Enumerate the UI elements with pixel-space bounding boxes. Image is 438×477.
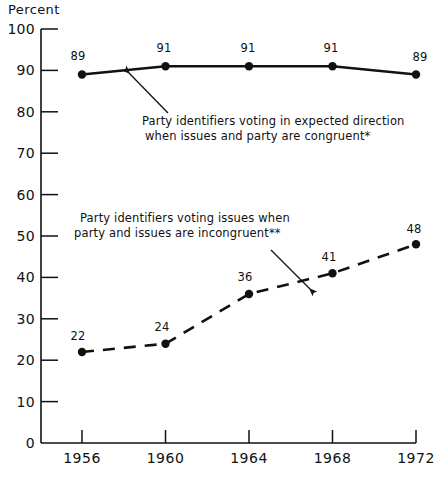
data-point-incongruent-1960 — [161, 340, 169, 348]
data-label-incongruent-1972: 48 — [406, 222, 421, 236]
data-label-incongruent-1968: 41 — [321, 250, 336, 264]
data-label-incongruent-1964: 36 — [237, 270, 252, 284]
y-axis-title: Percent — [8, 2, 60, 17]
x-tick-label-1972: 1972 — [397, 450, 435, 466]
y-tick-label-80: 80 — [17, 104, 35, 120]
y-tick-label-10: 10 — [17, 394, 35, 410]
data-point-congruent-1956 — [78, 70, 86, 78]
annotation-incongruent-line1: Party identifiers voting issues when — [80, 211, 290, 225]
y-tick-label-60: 60 — [17, 187, 35, 203]
data-point-congruent-1960 — [161, 62, 169, 70]
annotation-congruent: Party identifiers voting in expected dir… — [129, 73, 405, 143]
chart-canvas: Percent 100 90 80 70 60 50 40 — [0, 0, 438, 477]
x-axis-ticks — [82, 430, 416, 443]
y-tick-label-70: 70 — [17, 145, 35, 161]
data-point-congruent-1964 — [245, 62, 253, 70]
data-point-incongruent-1964 — [245, 290, 253, 298]
data-label-congruent-1964: 91 — [240, 41, 255, 55]
chart-figure: Percent 100 90 80 70 60 50 40 — [0, 0, 438, 477]
y-axis-tick-labels: 100 90 80 70 60 50 40 30 20 10 0 — [7, 21, 35, 451]
y-tick-label-90: 90 — [17, 62, 35, 78]
annotation-congruent-arrow — [129, 73, 168, 113]
y-tick-label-50: 50 — [17, 228, 35, 244]
y-tick-label-0: 0 — [26, 435, 35, 451]
annotation-incongruent: Party identifiers voting issues when par… — [74, 211, 310, 289]
x-tick-label-1964: 1964 — [230, 450, 268, 466]
y-tick-label-20: 20 — [17, 352, 35, 368]
y-tick-label-100: 100 — [7, 21, 35, 37]
annotation-incongruent-arrow — [271, 250, 310, 289]
x-tick-label-1956: 1956 — [63, 450, 101, 466]
annotation-congruent-line2: when issues and party are congruent* — [145, 129, 371, 143]
data-point-incongruent-1956 — [78, 348, 86, 356]
y-axis-ticks — [41, 29, 58, 402]
data-point-congruent-1972 — [412, 70, 420, 78]
annotation-incongruent-line2: party and issues are incongruent** — [74, 226, 281, 240]
y-tick-label-40: 40 — [17, 269, 35, 285]
y-tick-label-30: 30 — [17, 311, 35, 327]
data-label-incongruent-1956: 22 — [70, 329, 85, 343]
x-tick-label-1968: 1968 — [314, 450, 352, 466]
data-label-congruent-1968: 91 — [323, 41, 338, 55]
data-label-congruent-1960: 91 — [156, 41, 171, 55]
annotation-congruent-line1: Party identifiers voting in expected dir… — [142, 114, 405, 128]
series-incongruent: 22 24 36 41 48 — [70, 222, 421, 356]
data-label-congruent-1956: 89 — [70, 49, 85, 63]
x-tick-label-1960: 1960 — [147, 450, 185, 466]
series-congruent: 89 91 91 91 89 — [70, 41, 427, 79]
data-label-incongruent-1960: 24 — [154, 320, 169, 334]
data-point-incongruent-1972 — [412, 240, 420, 248]
data-label-congruent-1972: 89 — [412, 50, 427, 64]
data-point-congruent-1968 — [328, 62, 336, 70]
x-axis-tick-labels: 1956 1960 1964 1968 1972 — [63, 450, 435, 466]
data-point-incongruent-1968 — [328, 269, 336, 277]
